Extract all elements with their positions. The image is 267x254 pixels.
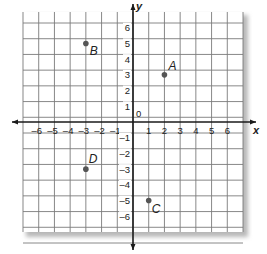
point-b — [83, 41, 89, 47]
x-tick-label: –4 — [63, 125, 74, 136]
x-tick-label: –3 — [79, 125, 90, 136]
point-label-d: D — [89, 152, 98, 166]
x-tick-label: –5 — [47, 125, 58, 136]
y-tick-label: 3 — [125, 69, 130, 80]
y-tick-label: 6 — [125, 22, 130, 33]
x-tick-label: 1 — [146, 125, 151, 136]
point-c — [146, 198, 152, 204]
x-tick-label: 5 — [209, 125, 214, 136]
y-axis-label: y — [135, 0, 143, 12]
y-tick-label: 1 — [125, 101, 130, 112]
y-tick-label: –6 — [119, 211, 130, 222]
coordinate-plane: xy –6–5–4–3–2–1123456654321–1–2–3–4–5–60… — [0, 0, 267, 254]
y-tick-label: –1 — [119, 132, 130, 143]
x-tick-label: 6 — [225, 125, 230, 136]
y-tick-label: –5 — [119, 195, 130, 206]
y-tick-label: 4 — [125, 54, 130, 65]
x-tick-label: 3 — [177, 125, 182, 136]
x-tick-label: 2 — [162, 125, 167, 136]
x-axis-left-arrow-icon — [12, 120, 18, 125]
point-label-a: A — [167, 59, 176, 73]
y-axis-up-arrow-icon — [131, 4, 136, 10]
y-tick-label: 2 — [125, 85, 130, 96]
y-tick-label: –4 — [119, 179, 130, 190]
point-a — [162, 72, 168, 78]
x-tick-label: –2 — [94, 125, 105, 136]
x-tick-label: –6 — [31, 125, 42, 136]
x-tick-label: 4 — [193, 125, 198, 136]
point-d — [83, 166, 89, 172]
x-axis-label: x — [252, 124, 260, 136]
point-label-b: B — [90, 44, 98, 58]
y-tick-label: –2 — [119, 148, 130, 159]
y-axis-down-arrow-icon — [131, 244, 136, 250]
y-tick-label: 5 — [125, 38, 130, 49]
point-label-c: C — [152, 202, 161, 216]
origin-label: 0 — [136, 108, 141, 119]
y-tick-label: –3 — [119, 164, 130, 175]
